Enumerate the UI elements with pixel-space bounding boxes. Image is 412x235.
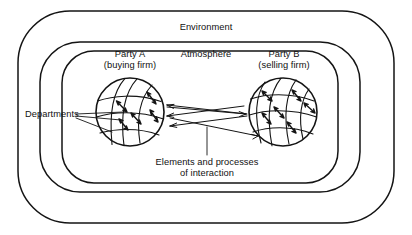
party-a-sphere bbox=[96, 78, 164, 146]
department-arrow bbox=[274, 107, 284, 118]
interaction-arrows bbox=[167, 104, 258, 139]
departments-label: Departments bbox=[25, 109, 79, 120]
party-a-meridian-2 bbox=[123, 79, 137, 146]
atmosphere-label: Atmosphere bbox=[181, 49, 232, 60]
interaction-arrow-right-upper bbox=[167, 107, 246, 117]
party-b-parallel-1 bbox=[251, 95, 315, 101]
party-a-department-arrows bbox=[117, 92, 159, 130]
department-arrow bbox=[119, 119, 128, 130]
interaction-arrow-right-lower bbox=[170, 118, 258, 139]
interaction-caption-line2: of interaction bbox=[180, 168, 234, 179]
party-b-label-line2: (selling firm) bbox=[258, 60, 309, 71]
party-a-label-line1: Party A bbox=[115, 49, 145, 60]
party-b-parallel-3 bbox=[253, 128, 313, 134]
environment-label: Environment bbox=[180, 22, 233, 33]
departments-leader-bottom bbox=[76, 118, 112, 132]
department-arrow bbox=[287, 122, 296, 133]
party-b-label-line1: Party B bbox=[269, 49, 300, 60]
diagram-canvas: Environment Atmosphere Party A (buying f… bbox=[0, 0, 412, 235]
party-b-sphere bbox=[249, 78, 317, 146]
interaction-caption-line1: Elements and processes bbox=[156, 157, 259, 168]
party-a-label-line2: (buying firm) bbox=[104, 60, 156, 71]
department-arrow bbox=[304, 103, 315, 113]
